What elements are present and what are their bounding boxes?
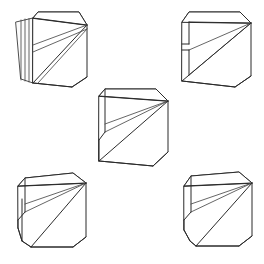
shape-center [99,89,168,166]
shape-top-right-top-face [182,12,251,23]
figure-canvas: Five 3D wedge block line drawings monoch… [0,0,264,264]
line-drawing-svg [0,0,264,264]
shape-bottom-left [18,173,86,247]
shape-top-left [16,12,87,87]
shape-bottom-right [184,172,252,246]
shape-top-right [182,12,251,87]
